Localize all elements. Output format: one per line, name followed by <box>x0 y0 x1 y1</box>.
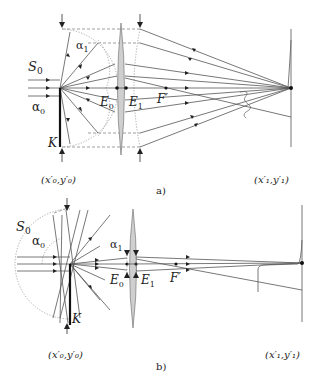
down-arrow-icon <box>137 22 143 28</box>
ray <box>125 88 291 112</box>
ray <box>125 76 291 88</box>
arrow-icon <box>66 53 70 57</box>
optics-diagram-svg: S0 α0 α1 K E0 E1 F′ (x′₀,y′₀) (x′₁,y′₁) … <box>0 0 317 385</box>
label-object-coords: (x′₀,y′₀) <box>48 349 83 360</box>
panel-b: S0 α0 α1 K E0 E1 F′ (x′₀,y′₀) (x′₁,y′₁) … <box>15 198 304 372</box>
label-E0: E0 <box>109 273 124 289</box>
arrow-icon <box>53 262 57 266</box>
arrow-icon <box>46 94 50 98</box>
arrow-icon <box>88 237 92 241</box>
point-E1 <box>124 86 128 90</box>
label-alpha1: α1 <box>110 238 123 253</box>
image-point <box>300 261 304 265</box>
label-E1: E1 <box>140 273 155 289</box>
label-S0: S0 <box>16 219 31 236</box>
ray <box>70 264 127 270</box>
arrow-icon <box>46 86 50 90</box>
lens <box>130 209 137 328</box>
ray <box>140 43 291 88</box>
ray <box>60 88 70 144</box>
label-K: K <box>47 136 58 150</box>
arrow-icon <box>53 255 57 259</box>
up-arrow-icon <box>137 148 143 154</box>
optics-figure: S0 α0 α1 K E0 E1 F′ (x′₀,y′₀) (x′₁,y′₁) … <box>0 0 317 385</box>
ray <box>70 264 105 280</box>
arrow-icon <box>46 78 50 82</box>
ray <box>136 257 302 263</box>
label-object-coords: (x′₀,y′₀) <box>41 174 76 185</box>
label-alpha1: α1 <box>76 39 89 54</box>
point-E0 <box>115 86 119 90</box>
up-arrow-icon <box>59 148 65 154</box>
arrow-icon <box>192 48 196 52</box>
arrow-icon <box>185 86 189 90</box>
arrow-icon <box>186 262 190 266</box>
image-point <box>289 86 293 90</box>
panel-a: S0 α0 α1 K E0 E1 F′ (x′₀,y′₀) (x′₁,y′₁) … <box>28 14 293 196</box>
ray <box>60 32 70 88</box>
arrow-icon <box>86 86 90 90</box>
focal-point-F <box>164 86 167 89</box>
focal-point-F <box>174 262 177 265</box>
label-K: K <box>71 312 82 326</box>
label-E0: E0 <box>99 95 114 111</box>
arrow-icon <box>188 58 192 61</box>
optical-axis <box>127 263 302 264</box>
caption-a: a) <box>156 185 166 196</box>
arrow-icon <box>95 262 99 266</box>
arrow-icon <box>53 269 57 273</box>
label-alpha0: α0 <box>32 100 45 116</box>
ray <box>140 29 291 88</box>
intensity-profile <box>258 240 302 292</box>
label-S0: S0 <box>28 59 43 76</box>
label-E1: E1 <box>128 95 143 111</box>
ray <box>125 64 291 88</box>
arrow-icon <box>186 255 190 259</box>
down-arrow-icon <box>64 205 70 211</box>
caption-b: b) <box>156 361 166 372</box>
label-image-coords: (x′₁,y′₁) <box>254 174 289 185</box>
down-arrow-icon <box>59 22 65 28</box>
label-F-prime: F′ <box>169 271 181 285</box>
label-alpha0: α0 <box>32 234 45 250</box>
ray <box>60 64 115 88</box>
arrow-icon <box>66 118 70 122</box>
up-arrow-icon <box>124 272 130 278</box>
arrow-icon <box>185 101 189 105</box>
label-image-coords: (x′₁,y′₁) <box>265 349 300 360</box>
arrow-icon <box>185 71 189 75</box>
ray <box>125 88 291 100</box>
down-arrow-icon <box>124 250 130 256</box>
label-F-prime: F′ <box>156 92 168 106</box>
